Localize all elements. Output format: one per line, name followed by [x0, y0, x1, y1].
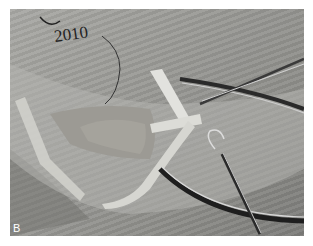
panel-label: B [13, 222, 20, 234]
surgical-photo: 2010 B [10, 9, 304, 236]
photo-illustration: 2010 [10, 9, 304, 236]
handwriting-text: 2010 [53, 22, 89, 46]
